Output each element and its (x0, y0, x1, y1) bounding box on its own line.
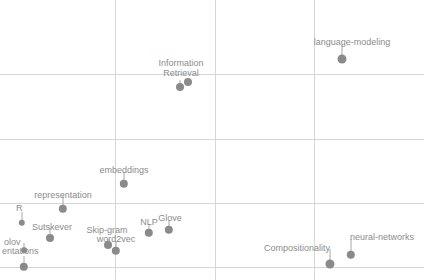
scatter-marker[interactable] (120, 180, 128, 188)
gridline-horizontal-3 (0, 267, 424, 268)
point-label-line: entations (2, 246, 39, 256)
point-label-line: Glove (158, 213, 182, 223)
scatter-plot-canvas: InformationRetrievallanguage-modelingemb… (0, 0, 424, 280)
point-label: NLP (140, 217, 158, 227)
point-label: Compositionality (264, 243, 330, 253)
gridline-horizontal-0 (0, 74, 424, 75)
point-label-line: Information (158, 58, 203, 68)
point-label-line: Sutskever (32, 222, 72, 232)
point-label-line: language-modeling (314, 37, 391, 47)
scatter-marker[interactable] (19, 220, 25, 226)
scatter-marker[interactable] (59, 205, 67, 213)
point-label: Sutskever (32, 222, 72, 232)
point-label: R (16, 203, 23, 213)
point-label: InformationRetrieval (158, 58, 203, 78)
scatter-marker[interactable] (326, 260, 335, 269)
point-label: entations (2, 246, 39, 256)
point-label-line: representation (34, 190, 92, 200)
scatter-marker[interactable] (165, 226, 173, 234)
gridline-horizontal-2 (0, 203, 424, 204)
point-label-line: word2vec (97, 234, 136, 244)
scatter-marker[interactable] (112, 247, 120, 255)
scatter-marker[interactable] (184, 78, 192, 86)
scatter-marker[interactable] (20, 263, 28, 271)
scatter-marker[interactable] (176, 83, 184, 91)
point-label: word2vec (97, 234, 136, 244)
point-label-line: embeddings (99, 165, 148, 175)
scatter-marker[interactable] (46, 234, 54, 242)
scatter-marker[interactable] (347, 251, 355, 259)
gridline-horizontal-1 (0, 139, 424, 140)
point-label-line: Retrieval (158, 68, 203, 78)
point-label: Glove (158, 213, 182, 223)
gridline-vertical-1 (215, 0, 216, 280)
point-label-line: R (16, 203, 23, 213)
point-label: representation (34, 190, 92, 200)
scatter-marker[interactable] (145, 229, 153, 237)
point-label: language-modeling (314, 37, 391, 47)
point-label: embeddings (99, 165, 148, 175)
scatter-marker[interactable] (338, 55, 347, 64)
point-label-line: Compositionality (264, 243, 330, 253)
point-label-line: neural-networks (350, 232, 414, 242)
point-label-line: NLP (140, 217, 158, 227)
point-label: neural-networks (350, 232, 414, 242)
